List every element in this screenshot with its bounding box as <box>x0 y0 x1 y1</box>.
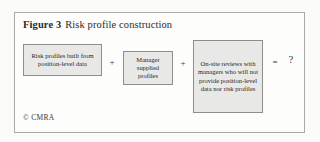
copyright-notice: © CMRA <box>23 113 54 122</box>
diagram-node-manager-supplied-profiles: Manager supplied profiles <box>123 51 173 85</box>
operator-equals: = <box>269 57 281 67</box>
diagram-node-label: Risk profiles built from position-level … <box>27 52 98 68</box>
diagram-node-label: On-site reviews with managers who will n… <box>197 60 259 93</box>
diagram-flow: Risk profiles built from position-level … <box>15 13 304 132</box>
diagram-node-on-site-reviews: On-site reviews with managers who will n… <box>193 40 263 113</box>
operator-plus-first: + <box>106 57 118 67</box>
diagram-node-risk-profiles-built: Risk profiles built from position-level … <box>23 44 102 76</box>
diagram-node-label: Manager supplied profiles <box>127 56 169 81</box>
operator-plus-second: + <box>177 58 189 68</box>
operator-question-mark: ? <box>285 53 297 65</box>
figure-frame: Figure 3Risk profile construction Risk p… <box>14 12 305 133</box>
